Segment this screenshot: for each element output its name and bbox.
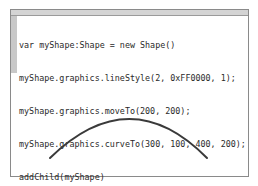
stage-canvas — [0, 0, 258, 186]
curve-shape — [50, 119, 207, 158]
